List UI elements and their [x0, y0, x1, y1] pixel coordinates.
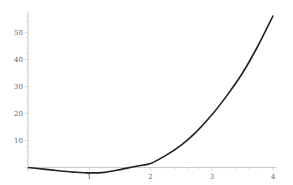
x-tick-label: 3 — [210, 173, 214, 181]
x-tick-label: 2 — [148, 173, 152, 181]
y-tick-label: 50 — [14, 29, 23, 37]
x-tick-label: 4 — [271, 173, 276, 181]
line-chart: 1020304050 1234 — [0, 0, 293, 185]
y-tick-label: 10 — [14, 137, 23, 145]
x-axis: 1234 — [28, 168, 276, 181]
y-tick-label: 20 — [14, 110, 23, 118]
y-tick-label: 30 — [14, 83, 23, 91]
y-tick-label: 40 — [14, 56, 23, 64]
data-curve — [28, 15, 273, 172]
y-axis: 1020304050 — [14, 12, 28, 171]
